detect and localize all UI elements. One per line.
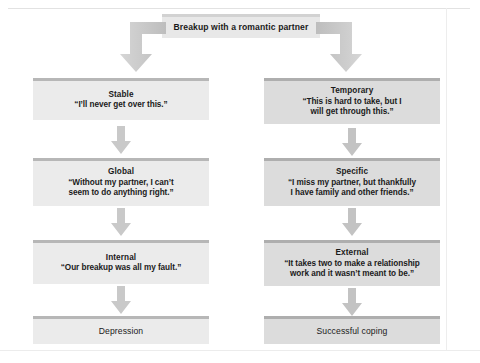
- node-specific-title: Specific: [336, 167, 368, 178]
- page-frame-right-line: [446, 8, 447, 350]
- node-outcome-depression: Depression: [33, 316, 209, 344]
- node-internal-quote: “Our breakup was all my fault.”: [61, 263, 181, 274]
- node-stable-quote: “I’ll never get over this.”: [74, 100, 167, 111]
- down-arrow-icon: [111, 286, 131, 316]
- node-specific-quote: “I miss my partner, but thankfully I hav…: [288, 178, 416, 199]
- node-outcome-successful-coping-label: Successful coping: [317, 326, 388, 337]
- node-external: External “It takes two to make a relatio…: [264, 240, 440, 286]
- node-internal-title: Internal: [106, 253, 136, 264]
- node-root-breakup: Breakup with a romantic partner: [162, 14, 320, 38]
- page-frame-bottom-line: [0, 350, 480, 351]
- elbow-arrow-right-icon: [316, 20, 370, 78]
- node-external-title: External: [335, 248, 368, 259]
- node-temporary: Temporary “This is hard to take, but I w…: [264, 78, 440, 124]
- down-arrow-icon: [342, 288, 362, 318]
- node-temporary-title: Temporary: [331, 86, 374, 97]
- node-internal: Internal “Our breakup was all my fault.”: [33, 240, 209, 284]
- down-arrow-icon: [111, 208, 131, 238]
- down-arrow-icon: [342, 208, 362, 238]
- node-outcome-depression-label: Depression: [99, 326, 143, 337]
- node-outcome-successful-coping: Successful coping: [264, 316, 440, 344]
- down-arrow-icon: [111, 126, 131, 156]
- node-stable-title: Stable: [108, 90, 133, 101]
- node-stable: Stable “I’ll never get over this.”: [33, 78, 209, 120]
- node-global-quote: “Without my partner, I can’t seem to do …: [68, 178, 173, 199]
- node-root-label: Breakup with a romantic partner: [174, 22, 309, 33]
- node-global-title: Global: [108, 167, 134, 178]
- elbow-arrow-left-icon: [112, 20, 166, 78]
- flowchart-diagram: Breakup with a romantic partner: [0, 0, 480, 363]
- node-external-quote: “It takes two to make a relationship wor…: [284, 259, 420, 280]
- node-global: Global “Without my partner, I can’t seem…: [33, 158, 209, 206]
- node-temporary-quote: “This is hard to take, but I will get th…: [302, 97, 401, 118]
- down-arrow-icon: [342, 128, 362, 158]
- page-frame-top-line: [8, 8, 470, 9]
- node-specific: Specific “I miss my partner, but thankfu…: [264, 158, 440, 206]
